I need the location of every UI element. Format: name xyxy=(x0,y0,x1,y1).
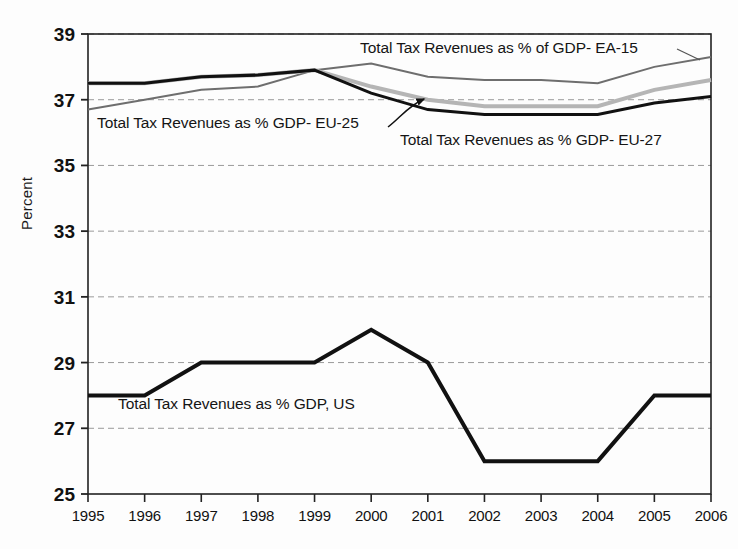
y-tick-label-33: 33 xyxy=(54,221,75,242)
x-tick-label-2005: 2005 xyxy=(638,507,671,524)
annotation-us-label: Total Tax Revenues as % GDP, US xyxy=(118,395,355,412)
x-axis-ticks: 1995199619971998199920002001200220032004… xyxy=(72,494,728,524)
x-tick-label-2000: 2000 xyxy=(355,507,388,524)
plot-border xyxy=(88,34,711,494)
y-tick-label-39: 39 xyxy=(54,24,75,45)
y-tick-label-31: 31 xyxy=(54,287,76,308)
ea15-leader-line xyxy=(677,49,700,60)
annotation-eu27-label: Total Tax Revenues as % GDP- EU-27 xyxy=(400,131,662,148)
y-tick-label-25: 25 xyxy=(54,484,76,505)
y-tick-label-35: 35 xyxy=(54,155,76,176)
chart-figure: Percent 2527293133353739 199519961997199… xyxy=(0,0,738,549)
x-tick-label-1995: 1995 xyxy=(72,507,105,524)
chart-canvas: 2527293133353739 19951996199719981999200… xyxy=(0,0,738,549)
x-tick-label-1997: 1997 xyxy=(185,507,218,524)
x-tick-label-2004: 2004 xyxy=(581,507,614,524)
annotation-ea15-label: Total Tax Revenues as % of GDP- EA-15 xyxy=(360,39,638,56)
x-tick-label-1996: 1996 xyxy=(128,507,161,524)
x-tick-label-1998: 1998 xyxy=(242,507,275,524)
y-tick-label-37: 37 xyxy=(54,90,75,111)
y-tick-label-27: 27 xyxy=(54,418,75,439)
annotation-eu25-label: Total Tax Revenues as % GDP- EU-25 xyxy=(97,114,359,131)
plot-frame xyxy=(88,34,711,494)
y-axis-ticks: 2527293133353739 xyxy=(54,24,88,505)
x-tick-label-2002: 2002 xyxy=(468,507,501,524)
x-tick-label-2006: 2006 xyxy=(695,507,728,524)
x-tick-label-2003: 2003 xyxy=(525,507,558,524)
x-tick-label-1999: 1999 xyxy=(298,507,331,524)
y-tick-label-29: 29 xyxy=(54,353,75,374)
x-tick-label-2001: 2001 xyxy=(412,507,445,524)
